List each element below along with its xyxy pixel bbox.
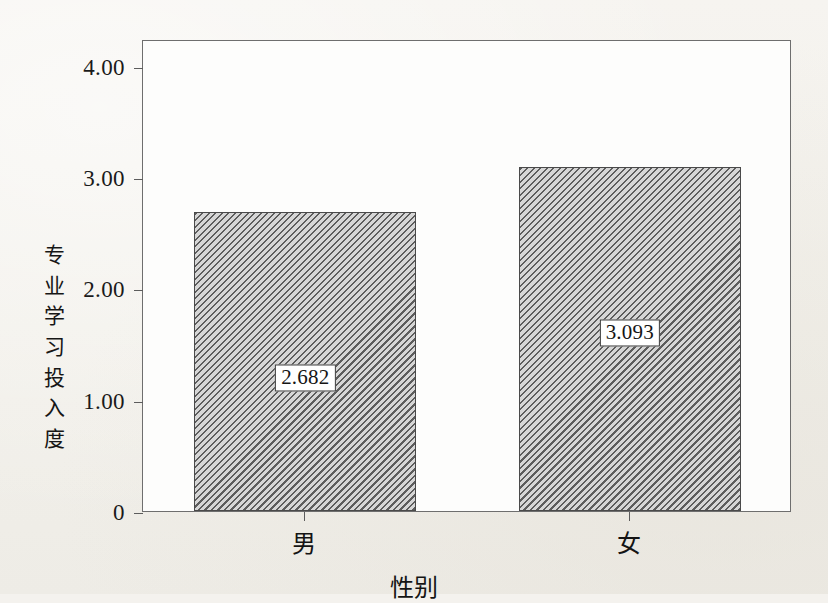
y-axis-title-char: 习 xyxy=(40,332,68,363)
bar-value-label: 2.682 xyxy=(275,365,335,392)
y-axis-title-char: 业 xyxy=(40,271,68,302)
y-axis-title-char: 学 xyxy=(40,301,68,332)
y-axis-tick: 4.00 xyxy=(134,68,143,69)
y-axis-tick: 1.00 xyxy=(134,402,143,403)
x-axis-tick xyxy=(304,512,305,521)
plot-area xyxy=(143,41,790,511)
y-axis-title-char: 专 xyxy=(40,240,68,271)
bar-value-label: 3.093 xyxy=(600,319,660,346)
y-axis-title-char: 度 xyxy=(40,424,68,455)
y-axis-tick-label: 0 xyxy=(113,500,134,526)
y-axis-title-char: 投 xyxy=(40,363,68,394)
bar xyxy=(194,212,416,511)
y-axis-tick-label: 3.00 xyxy=(83,167,134,193)
y-axis-tick-label: 4.00 xyxy=(83,55,134,81)
x-axis-ticks: 男女 xyxy=(142,512,791,572)
y-axis-tick: 2.00 xyxy=(134,290,143,291)
y-axis-tick-label: 2.00 xyxy=(83,278,134,304)
plot-frame: 4.003.002.001.000 2.6823.093 xyxy=(142,40,791,512)
x-axis-tick xyxy=(629,512,630,521)
y-axis-tick: 3.00 xyxy=(134,179,143,180)
x-axis-title: 性别 xyxy=(0,568,828,603)
x-axis-category-label: 女 xyxy=(617,524,641,559)
y-axis-title: 专 业 学 习 投 入 度 xyxy=(40,240,68,455)
x-axis-category-label: 男 xyxy=(292,524,316,559)
y-axis-tick-label: 1.00 xyxy=(83,389,134,415)
y-axis-title-char: 入 xyxy=(40,393,68,424)
